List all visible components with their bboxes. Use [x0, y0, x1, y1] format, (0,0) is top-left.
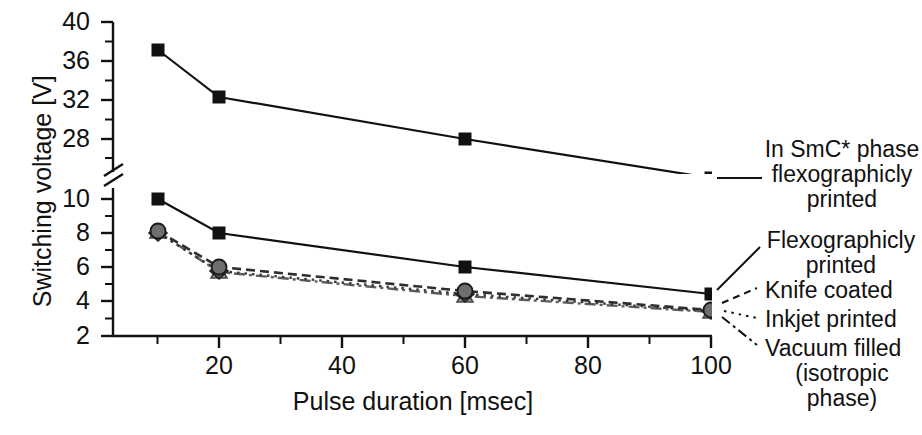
series-flexographicly-printed-line — [158, 199, 711, 294]
series-knife-coated-marker — [458, 284, 473, 299]
x-tick-label-100: 100 — [676, 352, 746, 379]
legend-label-vacuum-line3: phase) — [762, 386, 922, 410]
series-knife-coated-line — [158, 231, 711, 310]
series-vacuum-filled-line — [158, 232, 711, 312]
callout-line-inkjet — [724, 311, 757, 318]
legend-label-vacuum-line2: (isotropic — [762, 361, 922, 385]
callout-line-flexo — [717, 247, 760, 290]
series-smc-phase-line — [158, 50, 711, 178]
series-inkjet-printed-line — [158, 233, 711, 311]
callout-line-knife — [722, 288, 757, 303]
legend-label-smc-line1: In SmC* phase — [762, 137, 922, 161]
legend-label-flexo-line1: Flexographicly — [760, 228, 922, 252]
series-smc-phase-marker — [705, 172, 718, 185]
series-smc-phase-marker — [152, 44, 165, 57]
x-axis-title: Pulse duration [msec] — [233, 388, 593, 415]
chart-figure: 40 36 32 28 10 8 6 4 2 20 40 60 80 100 S… — [0, 0, 922, 435]
x-tick-label-80: 80 — [553, 352, 623, 379]
y-ticks-lower — [101, 199, 113, 336]
series-smc-phase-marker — [213, 91, 226, 104]
series-flexographicly-printed-marker — [152, 193, 165, 206]
x-tick-label-60: 60 — [430, 352, 500, 379]
series-flexographicly-printed — [152, 193, 718, 301]
legend-label-knife: Knife coated — [765, 278, 922, 302]
series-smc-phase-marker — [459, 133, 472, 146]
series-knife-coated — [151, 224, 719, 318]
x-ticks-minor — [158, 336, 650, 344]
series-knife-coated-marker — [151, 224, 166, 239]
legend-label-flexo-line2: printed — [760, 253, 922, 277]
series-smc-phase — [152, 44, 718, 185]
series-inkjet-printed — [149, 225, 720, 319]
series-knife-coated-marker — [212, 260, 227, 275]
legend-label-inkjet: Inkjet printed — [765, 307, 922, 331]
series-flexographicly-printed-marker — [213, 227, 226, 240]
x-tick-label-20: 20 — [184, 352, 254, 379]
series-flexographicly-printed-marker — [459, 261, 472, 274]
legend-label-smc-line3: printed — [762, 187, 922, 211]
legend-label-vacuum-line1: Vacuum filled — [765, 336, 922, 360]
y-axis-title: Switching voltage [V] — [29, 31, 56, 351]
series-flexographicly-printed-marker — [705, 288, 718, 301]
series-vacuum-filled — [150, 224, 719, 318]
x-ticks-major — [219, 336, 711, 348]
series-knife-coated-marker — [704, 303, 719, 318]
callout-line-vacuum — [722, 317, 757, 345]
x-tick-label-40: 40 — [307, 352, 377, 379]
legend-label-smc-line2: flexographicly — [762, 162, 922, 186]
